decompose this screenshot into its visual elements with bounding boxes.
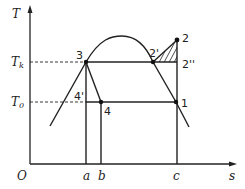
y-axis-arrow-icon: [28, 5, 33, 13]
ts-diagram: T s O Tk T0 a b c 1 2 2' 2'' 3 4 4': [0, 0, 245, 189]
axes: [30, 10, 232, 164]
t0-label: T0: [11, 95, 24, 110]
s-mark-b: b: [98, 169, 106, 183]
point-2prime-label: 2': [149, 47, 159, 60]
tk-label: Tk: [11, 55, 24, 70]
point-2-label: 2: [182, 32, 189, 45]
point-4-label: 4: [104, 105, 111, 118]
s-mark-a: a: [83, 169, 90, 183]
x-axis-arrow-icon: [229, 162, 237, 167]
saturation-dome: [50, 36, 189, 127]
origin-label: O: [17, 169, 27, 183]
x-axis-label: s: [229, 169, 235, 183]
point-4prime-label: 4': [74, 90, 84, 103]
point-3-label: 3: [76, 49, 83, 62]
diagram-svg: T s O Tk T0 a b c 1 2 2' 2'' 3 4 4': [0, 0, 245, 189]
point-1-label: 1: [181, 97, 188, 110]
s-mark-c: c: [173, 169, 180, 183]
point-2dprime-label: 2'': [182, 58, 195, 71]
y-axis-label: T: [12, 7, 21, 21]
